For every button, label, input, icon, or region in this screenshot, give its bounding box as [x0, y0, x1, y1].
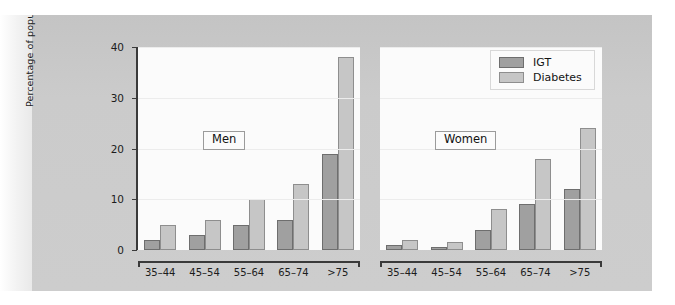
gridline-20 [138, 149, 360, 150]
y-tick-mark-40 [132, 47, 137, 48]
legend-swatch-igt [499, 57, 524, 68]
x-tick-label-men-2: 55–64 [227, 267, 271, 278]
gridline-30 [380, 98, 602, 99]
bar-women-igt-1 [431, 247, 447, 250]
legend-label-diabetes: Diabetes [533, 72, 582, 83]
bar-men-igt-4 [322, 154, 338, 250]
page-right-margin [652, 0, 675, 305]
y-tick-mark-30 [132, 98, 137, 99]
x-tick-label-men-4: >75 [316, 267, 360, 278]
x-axis-line-women [380, 261, 602, 263]
gridline-10 [138, 199, 360, 200]
bar-men-diabetes-3 [293, 184, 309, 250]
panel-tag-men: Men [203, 131, 245, 151]
bar-men-diabetes-4 [338, 57, 354, 250]
bar-men-diabetes-1 [205, 220, 221, 250]
x-tick-label-women-1: 45–54 [424, 267, 468, 278]
y-tick-mark-20 [132, 149, 137, 150]
bar-men-diabetes-0 [160, 225, 176, 250]
y-axis-label: Percentage of population [24, 0, 35, 107]
bar-women-igt-4 [564, 189, 580, 250]
bar-women-diabetes-2 [491, 209, 507, 250]
page-top-margin [0, 0, 675, 15]
bar-women-igt-3 [519, 204, 535, 250]
bar-women-diabetes-4 [580, 128, 596, 250]
bar-men-igt-2 [233, 225, 249, 250]
legend-label-igt: IGT [533, 57, 551, 68]
bar-men-igt-0 [144, 240, 160, 250]
x-tick-label-men-3: 65–74 [271, 267, 315, 278]
y-tick-label-40: 40 [102, 42, 124, 53]
x-tick-label-women-2: 55–64 [469, 267, 513, 278]
gridline-10 [380, 199, 602, 200]
y-tick-label-0: 0 [102, 245, 124, 256]
bar-men-igt-3 [277, 220, 293, 250]
x-tick-label-women-3: 65–74 [513, 267, 557, 278]
bar-women-diabetes-0 [402, 240, 418, 250]
figure-panel: Percentage of population 010203040 Men W… [32, 15, 652, 291]
legend-swatch-diabetes [499, 72, 524, 83]
gridline-30 [138, 98, 360, 99]
bar-women-igt-0 [386, 245, 402, 250]
legend-item-diabetes: Diabetes [499, 72, 582, 83]
y-tick-label-30: 30 [102, 93, 124, 104]
x-tick-label-men-1: 45–54 [182, 267, 226, 278]
x-tick-label-women-4: >75 [558, 267, 602, 278]
y-tick-mark-0 [132, 250, 137, 251]
x-tick-label-men-0: 35–44 [138, 267, 182, 278]
bar-women-igt-2 [475, 230, 491, 250]
chart-legend: IGT Diabetes [490, 50, 595, 90]
x-tick-label-women-0: 35–44 [380, 267, 424, 278]
y-tick-label-10: 10 [102, 194, 124, 205]
bar-men-igt-1 [189, 235, 205, 250]
page-bottom-margin [0, 291, 675, 305]
gridline-40 [138, 47, 360, 48]
y-tick-mark-10 [132, 199, 137, 200]
chart-panel-men [138, 47, 360, 250]
gridline-40 [380, 47, 602, 48]
y-tick-label-20: 20 [102, 144, 124, 155]
bar-men-diabetes-2 [249, 199, 265, 250]
legend-item-igt: IGT [499, 57, 582, 68]
bar-women-diabetes-3 [535, 159, 551, 250]
x-axis-line-men [138, 261, 360, 263]
bar-women-diabetes-1 [447, 242, 463, 250]
panel-tag-women: Women [435, 131, 496, 151]
